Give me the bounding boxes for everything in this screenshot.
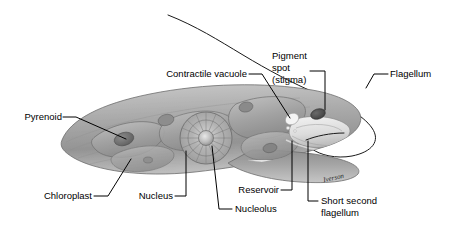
reservoir-body xyxy=(289,116,350,147)
leader-flagellum xyxy=(366,74,388,88)
label-pigment-spot-line1: Pigment xyxy=(272,50,307,61)
nucleolus-body xyxy=(199,131,214,146)
label-short-second-flagellum-line2: flagellum xyxy=(321,207,359,218)
label-nucleolus: Nucleolus xyxy=(235,203,277,214)
cell-body xyxy=(61,85,361,183)
label-short-second-flagellum: Short second flagellum xyxy=(321,195,377,218)
label-nucleus: Nucleus xyxy=(139,190,174,201)
label-pigment-spot-line3: (stigma) xyxy=(272,74,306,85)
label-pigment-spot-line2: spot xyxy=(272,62,290,73)
label-pyrenoid: Pyrenoid xyxy=(25,111,63,122)
label-short-second-flagellum-line1: Short second xyxy=(321,195,377,206)
label-reservoir: Reservoir xyxy=(238,184,279,195)
label-contractile-vacuole: Contractile vacuole xyxy=(166,68,247,79)
nucleus-body xyxy=(180,112,232,164)
euglena-diagram: Pyrenoid Chloroplast Nucleus Nucleolus C… xyxy=(0,0,461,235)
label-flagellum: Flagellum xyxy=(390,68,431,79)
label-pigment-spot: Pigment spot (stigma) xyxy=(272,50,307,85)
label-chloroplast: Chloroplast xyxy=(44,190,92,201)
